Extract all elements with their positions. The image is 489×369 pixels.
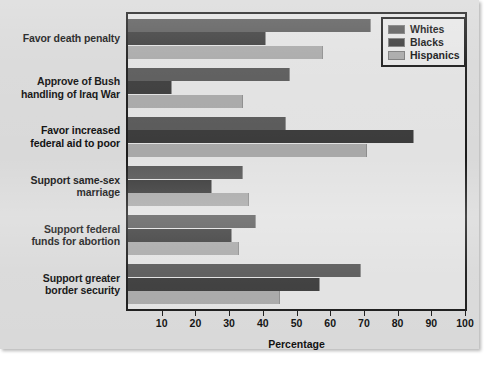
category-label-line: marriage [0, 186, 120, 199]
bar-whites-1 [128, 68, 290, 81]
bar-whites-0 [128, 19, 371, 32]
chart-page: Favor death penaltyApprove of Bushhandli… [0, 0, 489, 369]
bar-hispanics-5 [128, 291, 280, 304]
x-tick-mark-90 [431, 311, 432, 316]
x-tick-mark-100 [465, 311, 466, 316]
category-label-line: Favor death penalty [0, 32, 120, 45]
bar-blacks-2 [128, 130, 414, 143]
x-tick-label-50: 50 [282, 317, 312, 329]
x-tick-label-30: 30 [214, 317, 244, 329]
x-tick-label-90: 90 [416, 317, 446, 329]
bar-blacks-3 [128, 180, 212, 193]
category-label-line: Approve of Bush [0, 75, 120, 88]
category-label-line: handling of Iraq War [0, 88, 120, 101]
legend-item-blacks: Blacks [388, 36, 460, 48]
category-label-line: federal aid to poor [0, 137, 120, 150]
x-tick-label-10: 10 [147, 317, 177, 329]
category-label-line: funds for abortion [0, 235, 120, 248]
category-label-3: Support same-sexmarriage [0, 174, 120, 199]
x-tick-label-70: 70 [349, 317, 379, 329]
bar-hispanics-2 [128, 144, 367, 157]
category-label-line: Support greater [0, 272, 120, 285]
legend-label-blacks: Blacks [410, 36, 444, 48]
x-tick-mark-70 [364, 311, 365, 316]
x-tick-mark-50 [297, 311, 298, 316]
bar-whites-2 [128, 117, 286, 130]
bar-whites-5 [128, 264, 361, 277]
bar-whites-4 [128, 215, 256, 228]
x-axis-title: Percentage [126, 338, 467, 350]
x-tick-label-80: 80 [383, 317, 413, 329]
chart-legend: Whites Blacks Hispanics [381, 17, 466, 67]
x-tick-label-100: 100 [450, 317, 480, 329]
x-tick-label-40: 40 [248, 317, 278, 329]
bar-hispanics-3 [128, 193, 249, 206]
category-label-0: Favor death penalty [0, 32, 120, 45]
x-tick-mark-30 [229, 311, 230, 316]
category-label-5: Support greaterborder security [0, 272, 120, 297]
legend-swatch-blacks [388, 38, 405, 47]
category-label-1: Approve of Bushhandling of Iraq War [0, 75, 120, 100]
bar-hispanics-4 [128, 242, 239, 255]
x-tick-mark-60 [330, 311, 331, 316]
x-tick-mark-40 [263, 311, 264, 316]
x-tick-mark-80 [398, 311, 399, 316]
category-label-line: Support same-sex [0, 174, 120, 187]
legend-item-hispanics: Hispanics [388, 49, 460, 61]
bar-blacks-5 [128, 278, 320, 291]
x-tick-mark-20 [195, 311, 196, 316]
category-label-4: Support federalfunds for abortion [0, 223, 120, 248]
category-label-line: Favor increased [0, 124, 120, 137]
x-tick-mark-10 [162, 311, 163, 316]
legend-label-whites: Whites [410, 23, 444, 35]
category-label-line: border security [0, 284, 120, 297]
legend-swatch-whites [388, 25, 405, 34]
bar-hispanics-1 [128, 95, 243, 108]
bar-blacks-0 [128, 32, 266, 45]
category-label-2: Favor increasedfederal aid to poor [0, 124, 120, 149]
bar-blacks-4 [128, 229, 232, 242]
x-tick-label-20: 20 [180, 317, 210, 329]
bar-whites-3 [128, 166, 243, 179]
bar-blacks-1 [128, 81, 172, 94]
category-label-line: Support federal [0, 223, 120, 236]
legend-label-hispanics: Hispanics [410, 49, 460, 61]
x-tick-label-60: 60 [315, 317, 345, 329]
legend-item-whites: Whites [388, 23, 460, 35]
bar-hispanics-0 [128, 46, 323, 59]
legend-swatch-hispanics [388, 51, 405, 60]
